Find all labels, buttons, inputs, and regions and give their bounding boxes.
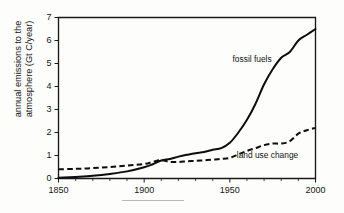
svg-text:2: 2 bbox=[46, 127, 51, 137]
footer-rule bbox=[122, 200, 184, 201]
svg-text:1850: 1850 bbox=[48, 185, 68, 195]
svg-text:3: 3 bbox=[46, 104, 51, 114]
svg-text:5: 5 bbox=[46, 58, 51, 68]
y-axis-ticks: 01234567 bbox=[46, 12, 58, 183]
svg-text:6: 6 bbox=[46, 35, 51, 45]
annotation-land-use-change: land use change bbox=[237, 150, 299, 160]
svg-text:1: 1 bbox=[46, 150, 51, 160]
svg-text:2000: 2000 bbox=[305, 185, 325, 195]
svg-text:7: 7 bbox=[46, 12, 51, 22]
annotation-fossil-fuels: fossil fuels bbox=[233, 54, 272, 64]
series-line-land-use-change bbox=[59, 128, 316, 169]
x-axis-ticks: 1850190019502000 bbox=[48, 179, 325, 196]
svg-text:4: 4 bbox=[46, 81, 51, 91]
chart-figure: annual emissions to the atmosphere (Gt C… bbox=[0, 0, 344, 213]
svg-text:1950: 1950 bbox=[220, 185, 240, 195]
svg-text:0: 0 bbox=[46, 173, 51, 183]
chart-plot-area: 01234567 1850190019502000 fossil fuelsla… bbox=[0, 0, 344, 213]
svg-text:1900: 1900 bbox=[134, 185, 154, 195]
